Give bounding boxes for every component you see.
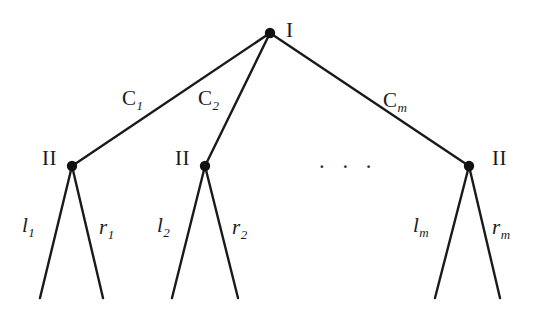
edge-action-label-3: Cm bbox=[383, 90, 407, 111]
game-tree-diagram: I · · · IIC1l1r1IIC2l2r2IICmlmrm bbox=[0, 0, 548, 319]
edge-left-leaf-1 bbox=[40, 166, 72, 298]
root-node bbox=[265, 28, 275, 38]
subtree-node-2 bbox=[200, 161, 210, 171]
left-action-label-3: lm bbox=[413, 215, 429, 236]
edge-root-to-subtree-3 bbox=[270, 33, 469, 166]
subtree-node-3 bbox=[464, 161, 474, 171]
root-player-label: I bbox=[286, 20, 294, 41]
ellipsis-label: · · · bbox=[318, 155, 377, 178]
subtree-player-label-2: II bbox=[175, 148, 190, 169]
right-action-label-1: r1 bbox=[99, 217, 114, 238]
edge-action-label-2: C2 bbox=[198, 88, 219, 109]
subtree-player-label-1: II bbox=[42, 148, 57, 169]
edge-action-label-1: C1 bbox=[122, 88, 143, 109]
left-action-label-2: l2 bbox=[157, 215, 170, 236]
edge-root-to-subtree-1 bbox=[72, 33, 270, 166]
right-action-label-3: rm bbox=[492, 217, 510, 238]
subtree-player-label-3: II bbox=[492, 148, 507, 169]
subtree-node-1 bbox=[67, 161, 77, 171]
edge-left-leaf-3 bbox=[435, 166, 469, 298]
edge-left-leaf-2 bbox=[172, 166, 205, 298]
tree-edges-group bbox=[40, 33, 500, 298]
game-tree-svg bbox=[0, 0, 548, 319]
left-action-label-1: l1 bbox=[22, 215, 35, 236]
right-action-label-2: r2 bbox=[232, 217, 247, 238]
